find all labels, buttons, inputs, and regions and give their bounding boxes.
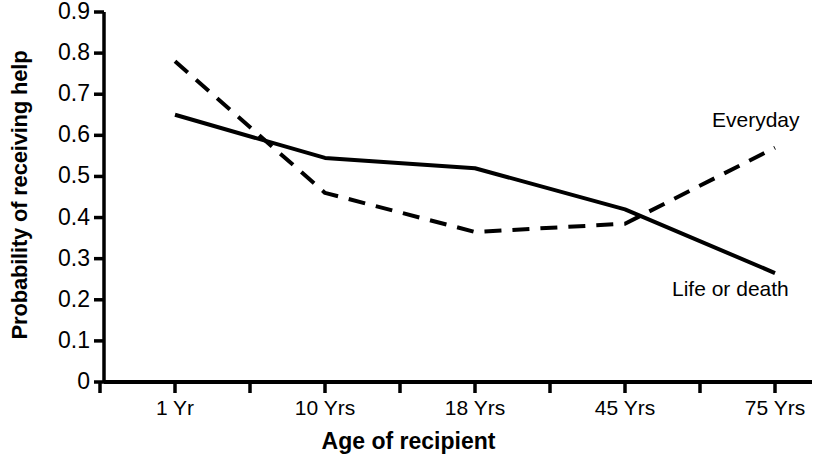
series-group <box>175 61 775 273</box>
x-axis-tick-label: 45 Yrs <box>595 396 655 420</box>
x-axis-tick-label: 18 Yrs <box>445 396 505 420</box>
plot-area <box>0 0 817 467</box>
x-axis-tick-label: 10 Yrs <box>295 396 355 420</box>
axes-group <box>94 12 812 393</box>
x-axis-tick-label: 1 Yr <box>156 396 194 420</box>
chart-container: Probability of receiving help 0.90.80.70… <box>0 0 817 467</box>
x-axis-title: Age of recipient <box>0 428 817 455</box>
series-line-everyday <box>175 61 775 232</box>
series-label-everyday: Everyday <box>712 108 800 132</box>
x-axis-tick-label: 75 Yrs <box>745 396 805 420</box>
series-label-life-or-death: Life or death <box>672 277 789 301</box>
